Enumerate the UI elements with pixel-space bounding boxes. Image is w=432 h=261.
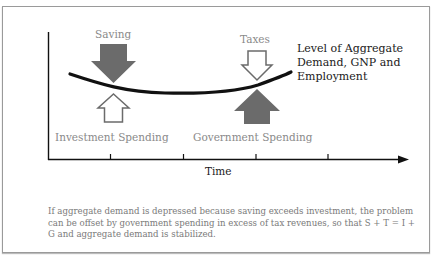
investment-spending-label: Investment Spending [55,131,169,143]
taxes-arrow-down-icon [242,51,272,80]
figure-caption: If aggregate demand is depressed because… [48,206,418,241]
taxes-label: Taxes [240,33,270,45]
saving-label: Saving [95,28,131,40]
curve-label: Level of Aggregate Demand, GNP and Emplo… [297,42,427,84]
government-spending-label: Government Spending [193,131,313,143]
x-axis-arrowhead-icon [398,156,409,164]
x-axis-label: Time [205,165,232,177]
investment-arrow-up-icon [98,94,129,122]
saving-arrow-down-icon [91,44,136,83]
government-arrow-up-icon [234,89,280,124]
